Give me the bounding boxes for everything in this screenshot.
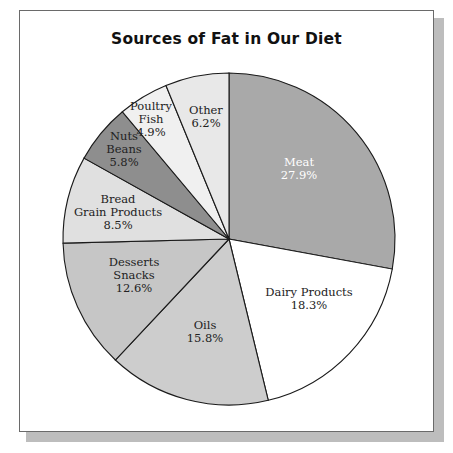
slice-label: Meat27.9% [281, 155, 318, 182]
pie-chart: Meat27.9%Dairy Products18.3%Oils15.8%Des… [0, 0, 453, 453]
slice-label: Other6.2% [189, 103, 223, 130]
slice-label: DessertsSnacks12.6% [109, 255, 160, 295]
